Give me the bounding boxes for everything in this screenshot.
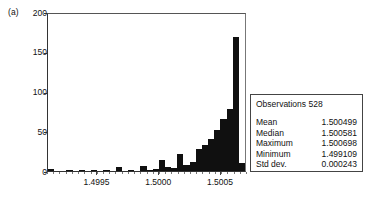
- x-tick-label: 1.5000: [145, 177, 171, 187]
- statistics-row-label: Maximum: [256, 138, 307, 149]
- statistics-row-label: Median: [256, 128, 307, 139]
- x-tick-mark-minor: [165, 172, 166, 174]
- y-tick-label: 150: [3, 48, 47, 57]
- plot-area: [47, 13, 246, 172]
- histogram-bar: [79, 170, 85, 171]
- x-tick-mark-minor: [91, 172, 92, 174]
- x-tick-mark: [220, 172, 221, 175]
- x-tick-mark-minor: [134, 172, 135, 174]
- histogram-bar: [128, 170, 134, 171]
- histogram-bar: [239, 163, 245, 171]
- x-tick-mark-minor: [109, 172, 110, 174]
- statistics-row-label: Std dev.: [256, 159, 307, 170]
- x-tick-mark: [96, 172, 97, 175]
- statistics-row: Mean1.500499: [256, 117, 357, 128]
- y-tick-label: 100: [3, 88, 47, 97]
- x-tick-mark-minor: [103, 172, 104, 174]
- histogram-figure: (a) 050100150200 1.49951.50001.5005 Obse…: [0, 0, 371, 204]
- histogram-bar: [233, 37, 239, 171]
- statistics-table-body: Mean1.500499Median1.500581Maximum1.50069…: [256, 117, 357, 170]
- x-tick-mark-minor: [115, 172, 116, 174]
- x-tick-mark-minor: [234, 172, 235, 174]
- x-tick-mark-minor: [221, 172, 222, 174]
- statistics-row: Std dev.0.000243: [256, 159, 357, 170]
- histogram-bar: [103, 170, 109, 171]
- x-tick-label: 1.5005: [207, 177, 233, 187]
- observations-line: Observations 528: [256, 99, 357, 110]
- x-tick-mark-minor: [196, 172, 197, 174]
- x-tick-mark-minor: [84, 172, 85, 174]
- histogram-bar: [48, 169, 54, 171]
- x-tick-mark-minor: [227, 172, 228, 174]
- x-tick-mark-minor: [202, 172, 203, 174]
- statistics-row-value: 1.500581: [307, 128, 357, 139]
- statistics-row-label: Minimum: [256, 149, 307, 160]
- x-tick-mark-minor: [209, 172, 210, 174]
- observations-label: Observations: [256, 99, 306, 109]
- statistics-row: Median1.500581: [256, 128, 357, 139]
- histogram-bar: [66, 170, 72, 171]
- statistics-row-value: 1.500499: [307, 117, 357, 128]
- x-tick-mark-minor: [47, 172, 48, 174]
- x-tick-mark-minor: [66, 172, 67, 174]
- x-tick-mark-minor: [122, 172, 123, 174]
- x-tick-mark-minor: [140, 172, 141, 174]
- x-tick-mark-minor: [178, 172, 179, 174]
- x-tick-mark: [158, 172, 159, 175]
- observations-value: 528: [308, 99, 322, 109]
- x-tick-mark-minor: [171, 172, 172, 174]
- x-tick-mark-minor: [59, 172, 60, 174]
- x-tick-mark-minor: [246, 172, 247, 174]
- statistics-row-value: 0.000243: [307, 159, 357, 170]
- x-tick-mark-minor: [190, 172, 191, 174]
- statistics-row-value: 1.499109: [307, 149, 357, 160]
- x-tick-mark-minor: [72, 172, 73, 174]
- y-tick-label: 0: [3, 168, 47, 177]
- x-tick-mark-minor: [147, 172, 148, 174]
- x-tick-mark-minor: [215, 172, 216, 174]
- x-tick-label: 1.4995: [83, 177, 109, 187]
- statistics-row-label: Mean: [256, 117, 307, 128]
- statistics-row: Maximum1.500698: [256, 138, 357, 149]
- x-tick-mark-minor: [78, 172, 79, 174]
- statistics-row: Minimum1.499109: [256, 149, 357, 160]
- x-tick-mark-minor: [128, 172, 129, 174]
- x-tick-mark-minor: [184, 172, 185, 174]
- statistics-table: Mean1.500499Median1.500581Maximum1.50069…: [256, 117, 357, 170]
- y-axis: 050100150200: [0, 13, 47, 172]
- x-tick-mark-minor: [53, 172, 54, 174]
- histogram-bar: [116, 167, 122, 171]
- histogram-bar: [91, 170, 97, 171]
- x-axis: 1.49951.50001.5005: [47, 172, 246, 202]
- statistics-box: Observations 528 Mean1.500499Median1.500…: [250, 94, 363, 172]
- statistics-row-value: 1.500698: [307, 138, 357, 149]
- y-tick-label: 50: [3, 128, 47, 137]
- histogram-bars: [48, 14, 245, 171]
- y-tick-label: 200: [3, 9, 47, 18]
- x-tick-mark-minor: [240, 172, 241, 174]
- x-tick-mark-minor: [153, 172, 154, 174]
